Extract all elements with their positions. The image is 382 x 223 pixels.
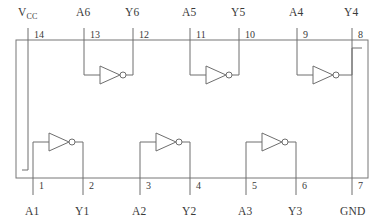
pin-number-10: 10: [245, 29, 255, 40]
pin-number-7: 7: [358, 180, 363, 191]
inverter-bubble-inverter-5: [226, 72, 232, 78]
package-outline-layer: [16, 40, 368, 178]
pin-label-Y6: Y6: [125, 6, 140, 18]
ic-package-body: [16, 40, 368, 178]
inverter-bubble-inverter-1: [69, 139, 75, 145]
pin-label-Y2: Y2: [182, 205, 197, 217]
inverter-bubble-inverter-2: [176, 139, 182, 145]
pin-number-5: 5: [252, 180, 257, 191]
inverter-bubble-inverter-6: [120, 72, 126, 78]
pin-number-4: 4: [196, 180, 201, 191]
inverter-bubble-inverter-4: [333, 72, 339, 78]
inverter-triangle-inverter-4: [313, 66, 333, 84]
pin-label-GND: GND: [340, 205, 366, 217]
pin-number-1: 1: [39, 180, 44, 191]
internal-wiring-layer: [22, 40, 362, 178]
pin-number-14: 14: [34, 29, 44, 40]
inverter-triangle-inverter-5: [206, 66, 226, 84]
pin-label-Y5: Y5: [231, 6, 246, 18]
pin-label-Y3: Y3: [288, 205, 303, 217]
pin-label-A4: A4: [289, 6, 304, 18]
pin-number-9: 9: [303, 29, 308, 40]
pin-number-3: 3: [146, 180, 151, 191]
pin-label-A1: A1: [25, 205, 40, 217]
pin-label-A5: A5: [182, 6, 197, 18]
pin-label-vcc: VCC: [18, 6, 38, 21]
inverter-bubble-inverter-3: [282, 139, 288, 145]
pin-number-13: 13: [90, 29, 100, 40]
labels-layer: 14VCC13A612Y611A510Y59A48Y41A12Y13A24Y25…: [18, 6, 366, 217]
inverter-triangle-inverter-6: [100, 66, 120, 84]
ic-pinout-diagram: 14VCC13A612Y611A510Y59A48Y41A12Y13A24Y25…: [0, 0, 382, 223]
pin-label-Y4: Y4: [344, 6, 359, 18]
pin-label-A6: A6: [76, 6, 91, 18]
pin-number-11: 11: [196, 29, 206, 40]
inverter-triangle-inverter-1: [49, 133, 69, 151]
inverter-gates-layer: [49, 66, 339, 151]
pin-number-6: 6: [302, 180, 307, 191]
inverter-triangle-inverter-2: [156, 133, 176, 151]
pin-number-8: 8: [358, 29, 363, 40]
pin-number-12: 12: [139, 29, 149, 40]
pin-label-A3: A3: [238, 205, 253, 217]
pin-label-A2: A2: [132, 205, 147, 217]
pin-label-Y1: Y1: [75, 205, 90, 217]
inverter-triangle-inverter-3: [262, 133, 282, 151]
pinout-diagram-root: 14VCC13A612Y611A510Y59A48Y41A12Y13A24Y25…: [0, 0, 382, 223]
pin-number-2: 2: [89, 180, 94, 191]
